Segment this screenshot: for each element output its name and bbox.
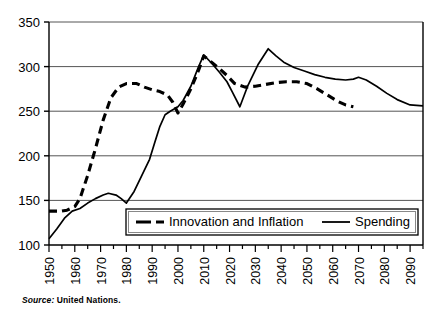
x-tick-label-2000: 2000: [172, 257, 186, 285]
y-tick-label-150: 150: [18, 193, 40, 208]
source-note: Source: United Nations.: [22, 295, 121, 305]
x-tick-label-2070: 2070: [353, 257, 367, 285]
x-tick-label-2090: 2090: [404, 257, 418, 285]
line-chart-svg: 1001502002503003501950196019701980199020…: [0, 0, 446, 317]
series-line-innovation-and-inflation: [49, 56, 353, 211]
chart-figure: 1001502002503003501950196019701980199020…: [0, 0, 446, 317]
x-tick-label-1970: 1970: [95, 257, 109, 285]
legend-label-innovation-and-inflation: Innovation and Inflation: [169, 214, 303, 229]
x-tick-label-1980: 1980: [120, 257, 134, 285]
y-tick-label-200: 200: [18, 149, 40, 164]
x-tick-label-2060: 2060: [327, 257, 341, 285]
source-label: Source:: [22, 295, 54, 305]
x-tick-label-2080: 2080: [378, 257, 392, 285]
source-value: United Nations.: [57, 295, 121, 305]
x-tick-label-2010: 2010: [198, 257, 212, 285]
y-tick-label-250: 250: [18, 104, 40, 119]
x-tick-label-1950: 1950: [43, 257, 57, 285]
x-tick-label-1960: 1960: [69, 257, 83, 285]
x-tick-label-2050: 2050: [301, 257, 315, 285]
y-tick-label-350: 350: [18, 15, 40, 30]
legend-label-spending: Spending: [355, 214, 410, 229]
y-tick-label-300: 300: [18, 60, 40, 75]
x-tick-label-1990: 1990: [146, 257, 160, 285]
x-tick-label-2030: 2030: [249, 257, 263, 285]
x-tick-label-2040: 2040: [275, 257, 289, 285]
x-tick-label-2020: 2020: [224, 257, 238, 285]
y-tick-label-100: 100: [18, 238, 40, 253]
